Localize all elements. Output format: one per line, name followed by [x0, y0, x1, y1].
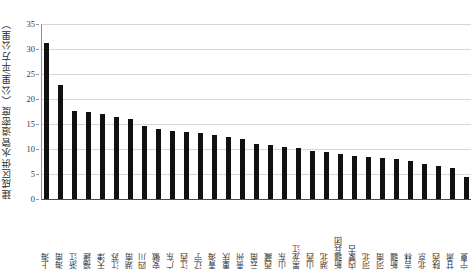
plot-area	[41, 24, 471, 200]
x-tick-label-text: 福建	[84, 201, 92, 269]
x-tick-label-text: 北京	[419, 201, 427, 269]
bar	[352, 156, 357, 199]
bar	[198, 133, 203, 199]
x-tick-label: 山东	[281, 201, 286, 269]
x-tick-label: 甘肃	[449, 201, 454, 269]
x-tick-label: 上海	[43, 201, 48, 269]
x-tick-label-text: 河南	[377, 201, 385, 269]
x-tick-label: 四川	[141, 201, 146, 269]
x-tick-label: 陕西	[435, 201, 440, 269]
x-tick-label: 河北	[365, 201, 370, 269]
x-tick-label-text: 江苏	[112, 201, 120, 269]
x-tick-label: 天津	[99, 201, 104, 269]
x-tick-label-text: 甘肃	[447, 201, 455, 269]
x-tick-label: 浙江	[71, 201, 76, 269]
x-axis-tick-labels: 上海海南浙江福建天津江苏湖南四川安徽广东江西辽宁青海重庆贵州云南西藏山东黑龙江山…	[41, 201, 470, 269]
y-tick-mark	[36, 174, 39, 175]
bar	[184, 132, 189, 199]
x-tick-label-text: 重庆	[223, 201, 231, 269]
y-tick-label: 20	[27, 94, 36, 104]
bar-chart-figure: 建成区供水管道密度（公里/平方公里） 05101520253035 上海海南浙江…	[0, 0, 472, 271]
bar	[128, 119, 133, 200]
x-tick-label-text: 江西	[181, 201, 189, 269]
x-tick-label-text: 西藏	[265, 201, 273, 269]
bar	[114, 117, 119, 200]
y-tick-mark	[36, 99, 39, 100]
y-tick-label: 0	[31, 194, 35, 204]
x-tick-label-text: 陕西	[433, 201, 441, 269]
y-tick-mark	[36, 74, 39, 75]
x-tick-label-text: 黑龙江	[293, 201, 301, 269]
y-axis-tick-labels: 05101520253035	[18, 0, 38, 271]
x-tick-label-text: 浙江	[70, 201, 78, 269]
bar	[408, 161, 413, 199]
bar-series	[42, 24, 471, 199]
x-tick-label: 河南	[379, 201, 384, 269]
bar	[296, 148, 301, 199]
x-tick-label: 湖北	[323, 201, 328, 269]
x-tick-label-text: 河北	[363, 201, 371, 269]
x-tick-label: 青海	[211, 201, 216, 269]
bar	[436, 166, 441, 199]
bar	[226, 137, 231, 199]
y-tick-label: 5	[31, 169, 35, 179]
y-tick-mark	[36, 149, 39, 150]
bar	[170, 131, 175, 199]
y-tick-mark	[36, 124, 39, 125]
x-tick-label-text: 海南	[56, 201, 64, 269]
x-tick-label-text: 新疆	[391, 201, 399, 269]
x-tick-label: 贵州	[239, 201, 244, 269]
bar	[100, 114, 105, 200]
bar	[156, 129, 161, 200]
y-tick-label: 10	[27, 144, 36, 154]
bar	[422, 164, 427, 199]
bar	[240, 139, 245, 200]
x-tick-label-text: 青海	[209, 201, 217, 269]
x-tick-label-text: 云南	[251, 201, 259, 269]
x-tick-label: 湖南	[127, 201, 132, 269]
bar	[450, 168, 455, 199]
x-tick-label-text: 湖北	[321, 201, 329, 269]
bar	[324, 152, 329, 199]
x-tick-label-text: 新疆兵团	[335, 201, 343, 269]
x-tick-label-text: 山西	[307, 201, 315, 269]
x-tick-label: 江苏	[113, 201, 118, 269]
x-tick-label-text: 广东	[167, 201, 175, 269]
x-tick-label-text: 宁夏	[461, 201, 469, 269]
x-tick-label: 江西	[183, 201, 188, 269]
y-tick-mark	[36, 24, 39, 25]
x-tick-label: 新疆	[393, 201, 398, 269]
x-tick-label: 西藏	[267, 201, 272, 269]
x-tick-label: 安徽	[155, 201, 160, 269]
bar	[142, 126, 147, 199]
x-tick-label: 辽宁	[197, 201, 202, 269]
y-tick-mark	[36, 199, 39, 200]
x-tick-label-text: 山东	[279, 201, 287, 269]
x-tick-label: 新疆兵团	[337, 201, 342, 269]
x-tick-label: 山西	[309, 201, 314, 269]
bar	[282, 147, 287, 199]
x-tick-label-text: 湖南	[126, 201, 134, 269]
x-tick-label-text: 贵州	[237, 201, 245, 269]
bar	[254, 144, 259, 200]
bar	[380, 158, 385, 200]
x-tick-label: 内蒙古	[351, 201, 356, 269]
x-tick-label-text: 辽宁	[195, 201, 203, 269]
y-axis-title-text: 建成区供水管道密度（公里/平方公里）	[3, 19, 13, 199]
x-tick-label-text: 上海	[42, 201, 50, 269]
x-tick-label: 广东	[169, 201, 174, 269]
x-tick-label: 福建	[85, 201, 90, 269]
x-tick-label: 云南	[253, 201, 258, 269]
y-tick-label: 25	[27, 69, 36, 79]
x-tick-label-text: 安徽	[153, 201, 161, 269]
bar	[44, 43, 49, 200]
bar	[58, 85, 63, 200]
bar	[366, 157, 371, 200]
x-tick-label-text: 内蒙古	[349, 201, 357, 269]
bar	[268, 145, 273, 200]
x-tick-label: 海南	[57, 201, 62, 269]
y-tick-label: 30	[27, 44, 36, 54]
bar	[212, 135, 217, 200]
x-tick-label-text: 天津	[98, 201, 106, 269]
x-tick-label: 吉林	[407, 201, 412, 269]
